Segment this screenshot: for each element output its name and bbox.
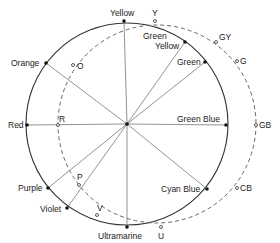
point-purple: [46, 186, 50, 190]
point-o: [72, 64, 75, 67]
label-cyan-blue: Cyan Blue: [161, 184, 200, 194]
point-yellow: [122, 19, 126, 23]
label-red: Red: [8, 120, 24, 130]
label-gb: GB: [259, 120, 272, 130]
point-orange: [44, 61, 48, 65]
label-gy: GY: [219, 32, 232, 42]
label-p: P: [77, 172, 83, 182]
label-yellow: Yellow: [110, 8, 135, 18]
point-g: [236, 60, 239, 63]
spoke-green-yellow: [127, 42, 185, 124]
point-u: [160, 226, 163, 229]
point-green: [203, 60, 207, 64]
label-cb: CB: [240, 183, 252, 193]
spoke-cyan-blue: [127, 124, 207, 189]
point-green-blue: [224, 123, 228, 127]
spoke-purple: [48, 124, 127, 188]
spoke-red: [27, 124, 127, 125]
label-r: R: [59, 114, 65, 124]
label-y: Y: [152, 8, 158, 18]
label-ultramarine: Ultramarine: [98, 231, 142, 241]
label-violet: Violet: [40, 204, 62, 214]
point-cb: [236, 187, 239, 190]
point-green-yellow: [183, 40, 187, 44]
label-orange: Orange: [11, 58, 40, 68]
point-y: [154, 20, 157, 23]
point-violet: [65, 206, 69, 210]
label-purple: Purple: [18, 183, 43, 193]
spoke-yellow: [124, 21, 127, 124]
point-cyan-blue: [205, 187, 209, 191]
label-green-yellow-line1: Green: [143, 31, 167, 41]
color-circle-diagram: Yellow Green Yellow Green Green Blue Cya…: [0, 0, 280, 243]
label-u: U: [158, 231, 164, 241]
label-green-yellow-line2: Yellow: [155, 41, 180, 51]
center-point: [125, 122, 129, 126]
label-g: G: [240, 56, 247, 66]
point-red: [25, 123, 29, 127]
point-gb: [255, 124, 258, 127]
spoke-violet: [67, 124, 127, 208]
label-green-blue: Green Blue: [177, 114, 220, 124]
label-v: V: [97, 203, 103, 213]
spoke-green-blue: [127, 124, 226, 125]
point-gy: [215, 41, 218, 44]
point-v: [96, 214, 99, 217]
label-green: Green: [177, 57, 201, 67]
point-p: [78, 184, 81, 187]
label-o: O: [77, 61, 84, 71]
point-ultramarine: [125, 225, 129, 229]
